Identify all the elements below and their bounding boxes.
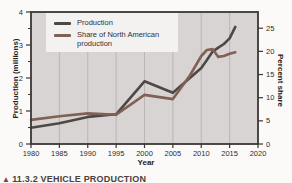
caption-text: 11.3.2 VEHICLE PRODUCTION: [12, 174, 146, 183]
x-tick-label: 1990: [79, 149, 96, 158]
chart-legend: Production Share of North American produ…: [46, 13, 178, 52]
y-right-tick-label: 15: [266, 70, 274, 79]
legend-item-share: Share of North American production: [52, 30, 172, 48]
x-tick-label: 1980: [23, 149, 40, 158]
y-right-tick-label: 5: [266, 116, 270, 125]
figure-caption: ▲11.3.2 VEHICLE PRODUCTION: [2, 174, 292, 183]
x-tick-label: 1995: [108, 149, 125, 158]
y-right-tick-label: 25: [266, 24, 274, 33]
x-axis-title: Year: [96, 158, 196, 167]
x-tick-label: 1985: [51, 149, 68, 158]
legend-item-production: Production: [52, 18, 172, 27]
legend-label-production: Production: [77, 18, 113, 27]
share-line-swatch: [54, 34, 71, 37]
y-axis-right-title: Percent share: [276, 36, 285, 126]
y-axis-left-title: Production (millions): [11, 34, 20, 124]
x-tick-label: 2000: [136, 149, 153, 158]
legend-label-share: Share of North American production: [77, 30, 172, 48]
y-right-tick-label: 20: [266, 47, 274, 56]
x-tick-label: 2005: [165, 149, 182, 158]
x-tick-label: 2010: [193, 149, 210, 158]
y-left-tick-label: 4: [19, 8, 23, 17]
y-left-tick-label: 0: [19, 140, 23, 149]
y-right-tick-label: 10: [266, 93, 274, 102]
x-tick-label: 2020: [250, 149, 267, 158]
production-line-swatch: [54, 22, 71, 25]
figure-panel: 1980198519901995200020052010201520200123…: [0, 0, 292, 183]
caption-triangle-icon: ▲: [2, 175, 10, 183]
x-tick-label: 2015: [221, 149, 238, 158]
y-right-tick-label: 0: [266, 140, 270, 149]
